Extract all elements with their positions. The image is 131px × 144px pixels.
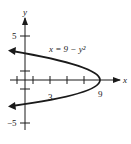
y-axis-label: y bbox=[22, 7, 27, 17]
tick-label-x-9: 9 bbox=[98, 89, 103, 99]
equation-label: x = 9 − y² bbox=[48, 44, 86, 54]
x-axis-label: x bbox=[122, 75, 127, 85]
arrowhead-upper-icon bbox=[8, 47, 16, 55]
tick-label-x-3: 3 bbox=[48, 92, 53, 102]
tick-label-y-5: 5 bbox=[12, 31, 17, 41]
arrowhead-lower-icon bbox=[8, 102, 16, 110]
parabola-plot: y x 5 −5 3 9 x = 9 − y² bbox=[0, 0, 131, 144]
tick-label-y-neg5: −5 bbox=[7, 118, 17, 128]
